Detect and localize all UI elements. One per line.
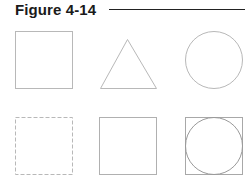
triangle-shape <box>101 40 157 89</box>
shapes-diagram <box>0 0 252 178</box>
inscribed-circle <box>186 118 243 175</box>
dashed-square-shape <box>16 118 73 175</box>
circle-in-square-shape <box>186 118 243 175</box>
square-shape <box>16 32 73 89</box>
circle-shape <box>186 32 243 89</box>
square-2-shape <box>100 118 157 175</box>
